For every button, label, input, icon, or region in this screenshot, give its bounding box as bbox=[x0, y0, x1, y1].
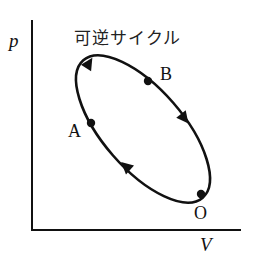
pv-diagram: p V 可逆サイクル A B O bbox=[0, 0, 261, 270]
cycle-points bbox=[87, 77, 205, 198]
x-axis-label: V bbox=[200, 234, 214, 255]
axes bbox=[31, 20, 241, 231]
y-axis-label: p bbox=[7, 30, 19, 51]
arrow-icon-bottom bbox=[117, 158, 134, 175]
point-B bbox=[144, 77, 152, 85]
label-B: B bbox=[160, 64, 172, 84]
label-A: A bbox=[68, 121, 81, 141]
label-O: O bbox=[194, 203, 207, 223]
diagram-title: 可逆サイクル bbox=[74, 28, 181, 48]
point-O bbox=[197, 190, 205, 198]
direction-arrows bbox=[81, 55, 193, 175]
point-A bbox=[87, 119, 95, 127]
